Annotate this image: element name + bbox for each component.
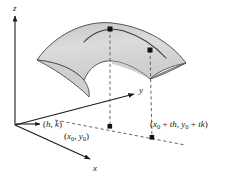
z-axis-label: z [13, 4, 17, 13]
marker-surface-point-1 [108, 27, 113, 32]
figure-canvas [0, 0, 239, 183]
y-axis-label: y [139, 86, 143, 95]
moved-point-plus2: + [189, 119, 199, 129]
x-axis-label: x [93, 164, 97, 173]
base-point-x-sub: 0 [71, 135, 74, 142]
direction-vector-close: ) [59, 119, 62, 129]
base-point-label: (x0, y0) [64, 132, 89, 141]
moved-point-label: (x0 + th, y0 + tk) [150, 120, 208, 129]
marker-plane-point-1 [108, 124, 113, 129]
y-axis [15, 94, 134, 125]
marker-surface-point-2 [148, 48, 153, 53]
moved-point-th: th [170, 119, 177, 129]
saddle-surface [37, 23, 186, 97]
directional-derivative-figure: z y x (h, k) (x0, y0) (x0 + th, y0 + tk) [0, 0, 239, 183]
marker-plane-point-2 [150, 135, 155, 140]
moved-point-plus1: + [160, 119, 170, 129]
moved-point-close: ) [205, 119, 208, 129]
moved-point-x-sub: 0 [157, 123, 160, 130]
moved-point-y-sub: 0 [185, 123, 188, 130]
base-point-y-sub: 0 [83, 135, 86, 142]
base-point-close: ) [86, 131, 89, 141]
direction-vector-label: (h, k) [43, 120, 62, 129]
